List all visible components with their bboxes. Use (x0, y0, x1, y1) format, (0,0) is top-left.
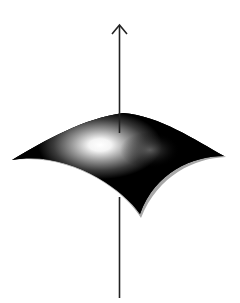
surface-diagram (0, 0, 240, 303)
